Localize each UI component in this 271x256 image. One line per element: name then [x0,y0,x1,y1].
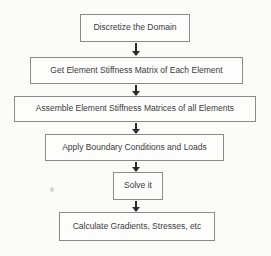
scan-smudge [50,187,54,192]
down-arrow-icon [131,201,141,212]
flow-step-label: Get Element Stiffness Matrix of Each Ele… [50,66,222,75]
flow-step-discretize-domain: Discretize the Domain [80,14,190,42]
flow-step-label: Apply Boundary Conditions and Loads [62,143,207,152]
flow-step-assemble-matrices: Assemble Element Stiffness Matrices of a… [14,96,256,122]
flowchart-diagram: Discretize the Domain Get Element Stiffn… [0,0,271,256]
arrow-stem [135,43,137,51]
flow-step-solve: Solve it [113,172,163,200]
down-arrow-icon [131,162,141,172]
flow-step-label: Calculate Gradients, Stresses, etc [73,222,202,231]
flow-step-calculate-gradients: Calculate Gradients, Stresses, etc [59,212,215,241]
flow-step-element-stiffness-matrix: Get Element Stiffness Matrix of Each Ele… [30,57,243,84]
down-arrow-icon [131,85,141,96]
down-arrow-icon [131,123,141,134]
flow-step-label: Solve it [124,181,152,190]
flow-step-boundary-conditions: Apply Boundary Conditions and Loads [45,134,224,161]
down-arrow-icon [131,43,141,56]
arrow-head [132,51,140,56]
flow-step-label: Discretize the Domain [93,23,176,32]
flow-step-label: Assemble Element Stiffness Matrices of a… [36,104,234,113]
